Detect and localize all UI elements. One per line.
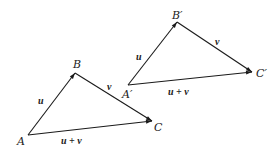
vector-edge-bc: v — [75, 73, 152, 121]
vector-line — [28, 121, 152, 135]
triangle-translated: uvu + vA′B′C′ — [121, 9, 267, 101]
vector-label: v — [215, 36, 220, 47]
vector-label: v — [107, 81, 112, 92]
vector-line — [177, 22, 252, 72]
vector-edge-bc: v — [177, 22, 252, 72]
vector-edge-ac: u + v — [128, 71, 252, 97]
vertex-label-c: C — [154, 121, 163, 134]
vertex-label-c: C′ — [256, 67, 267, 80]
vector-line — [128, 72, 252, 85]
vertex-label-b: B′ — [171, 9, 183, 22]
vector-diagram: uvu + vABCuvu + vA′B′C′ — [0, 0, 279, 156]
vertex-label-a: A — [16, 135, 25, 148]
vector-edge-ab: u — [128, 22, 177, 85]
vertex-label-a: A′ — [121, 88, 133, 101]
vector-line — [28, 73, 75, 135]
vector-label: u + v — [168, 86, 189, 97]
vector-label: u + v — [61, 135, 82, 146]
vector-edge-ac: u + v — [28, 120, 152, 146]
vector-line — [75, 73, 152, 121]
vertex-label-b: B — [72, 58, 81, 71]
vector-edge-ab: u — [28, 73, 75, 135]
vector-label: u — [38, 95, 44, 106]
vector-label: u — [136, 51, 142, 62]
triangle-original: uvu + vABC — [16, 58, 163, 148]
